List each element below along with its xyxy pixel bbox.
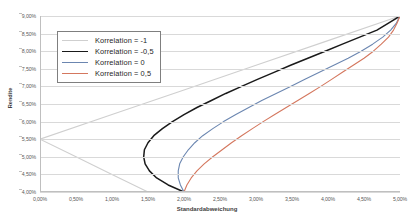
x-axis-title: Standardabweichung (0, 206, 414, 212)
x-axis-tick-label: 5,00% (393, 196, 407, 202)
legend-item[interactable]: Korrelation = -0,5 (62, 46, 154, 57)
legend-swatch (62, 73, 88, 74)
x-axis-tick-label: 2,50% (213, 196, 227, 202)
x-axis-tick-label: 4,50% (357, 196, 371, 202)
y-axis-tick-label: 6,50% (22, 101, 36, 107)
x-axis-line (40, 191, 400, 192)
legend-label: Korrelation = 0,5 (95, 69, 151, 78)
y-axis-tick-mark (19, 83, 22, 84)
legend-label: Korrelation = 0 (95, 58, 145, 67)
series-line-0 (40, 139, 148, 192)
y-axis-tick-mark (19, 119, 22, 120)
x-axis-tick-label: 1,50% (141, 196, 155, 202)
gridline-horizontal (40, 122, 400, 123)
x-axis-tick-label: 0,00% (33, 196, 47, 202)
y-axis-tick-mark (19, 171, 22, 172)
gridline-horizontal (40, 174, 400, 175)
legend: Korrelation = -1Korrelation = -0,5Korrel… (57, 31, 161, 83)
legend-label: Korrelation = -1 (95, 36, 147, 45)
legend-swatch (62, 40, 88, 41)
x-axis-tick-label: 3,00% (249, 196, 263, 202)
y-axis-tick-mark (19, 154, 22, 155)
y-axis-tick-mark (19, 101, 22, 102)
y-axis-line (40, 16, 41, 192)
y-axis-tick-label: 4,00% (22, 189, 36, 195)
gridline-horizontal (40, 16, 400, 17)
y-axis-tick-label: 8,00% (22, 48, 36, 54)
x-axis-tick-label: 0,50% (69, 196, 83, 202)
y-axis-tick-label: 5,00% (22, 154, 36, 160)
y-axis-tick-mark (19, 189, 22, 190)
y-axis-tick-label: 6,00% (22, 119, 36, 125)
y-axis-tick-mark (19, 48, 22, 49)
legend-item[interactable]: Korrelation = 0,5 (62, 68, 154, 79)
legend-item[interactable]: Korrelation = -1 (62, 35, 154, 46)
y-axis-tick-mark (19, 136, 22, 137)
x-axis-tick-label: 4,00% (321, 196, 335, 202)
gridline-horizontal (40, 104, 400, 105)
y-axis-tick-label: 4,50% (22, 171, 36, 177)
legend-swatch (62, 51, 88, 52)
y-axis-tick-label: 7,00% (22, 83, 36, 89)
legend-label: Korrelation = -0,5 (95, 47, 154, 56)
y-axis-title: Rendite (7, 68, 13, 128)
x-axis-tick-label: 3,50% (285, 196, 299, 202)
y-axis-tick-mark (19, 31, 22, 32)
legend-swatch (62, 62, 88, 63)
gridline-horizontal (40, 86, 400, 87)
y-axis-tick-label: 9,00% (22, 13, 36, 19)
y-axis-tick-label: 8,50% (22, 31, 36, 37)
y-axis-tick-label: 7,50% (22, 66, 36, 72)
gridline-horizontal (40, 157, 400, 158)
gridline-horizontal (40, 139, 400, 140)
legend-item[interactable]: Korrelation = 0 (62, 57, 154, 68)
y-axis-tick-mark (19, 13, 22, 14)
y-axis-tick-mark (19, 66, 22, 67)
y-axis-tick-label: 5,50% (22, 136, 36, 142)
x-axis-tick-label: 2,00% (177, 196, 191, 202)
gridline-horizontal (40, 192, 400, 193)
x-axis-tick-label: 1,00% (105, 196, 119, 202)
efficient-frontier-chart: 9,00%8,50%8,00%7,50%7,00%6,50%6,00%5,50%… (0, 0, 414, 222)
